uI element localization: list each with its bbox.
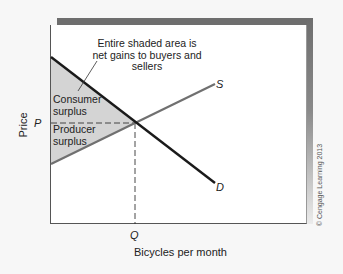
y-axis-title: Price [17, 112, 29, 137]
supply-label: S [216, 78, 223, 90]
producer-surplus-label: Producer surplus [53, 124, 96, 147]
annotation-text: Entire shaded area is net gains to buyer… [82, 38, 212, 73]
consumer-surplus-line-2: surplus [53, 106, 101, 118]
annotation-line-1: Entire shaded area is [82, 38, 212, 50]
price-tick-label: P [34, 117, 41, 129]
economics-surplus-figure: Entire shaded area is net gains to buyer… [0, 0, 343, 274]
quantity-tick-label: Q [130, 229, 139, 241]
producer-surplus-line-1: Producer [53, 124, 96, 136]
x-axis-title: Bicycles per month [134, 246, 227, 258]
consumer-surplus-line-1: Consumer [53, 94, 101, 106]
consumer-surplus-label: Consumer surplus [53, 94, 101, 117]
copyright-notice: © Cengage Learning 2013 [316, 144, 323, 226]
annotation-line-3: sellers [82, 61, 212, 73]
demand-label: D [216, 181, 224, 193]
producer-surplus-line-2: surplus [53, 136, 96, 148]
